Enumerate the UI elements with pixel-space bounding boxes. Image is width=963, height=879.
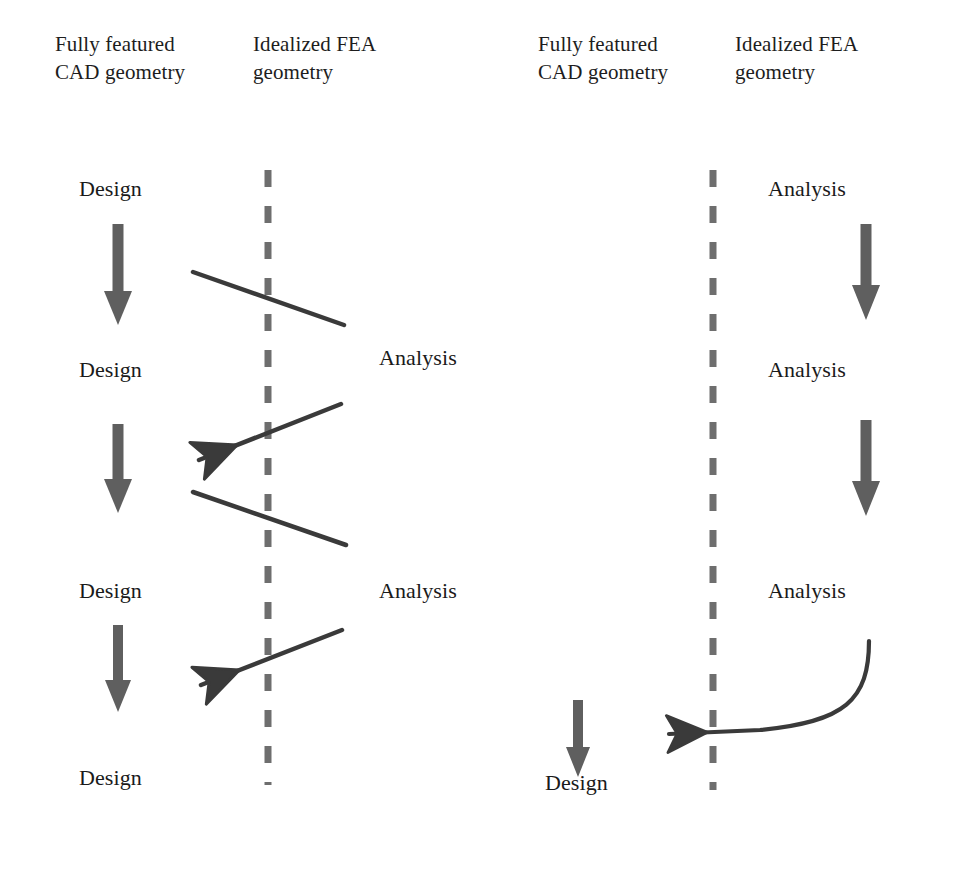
right-analysis-down-arrow-1 bbox=[852, 224, 880, 320]
left-down-arrow-1 bbox=[104, 224, 132, 325]
right-analysis-down-arrow-2 bbox=[852, 420, 880, 516]
left-down-arrow-2 bbox=[104, 424, 132, 513]
diagram-canvas: Fully featured CAD geometry Idealized FE… bbox=[0, 0, 963, 879]
right-curved-return-arrow bbox=[669, 641, 869, 734]
diagram-vector-layer bbox=[0, 0, 963, 879]
right-design-down-arrow bbox=[566, 700, 590, 777]
left-return-arrow-1 bbox=[199, 404, 341, 460]
left-down-arrow-3 bbox=[105, 625, 131, 712]
